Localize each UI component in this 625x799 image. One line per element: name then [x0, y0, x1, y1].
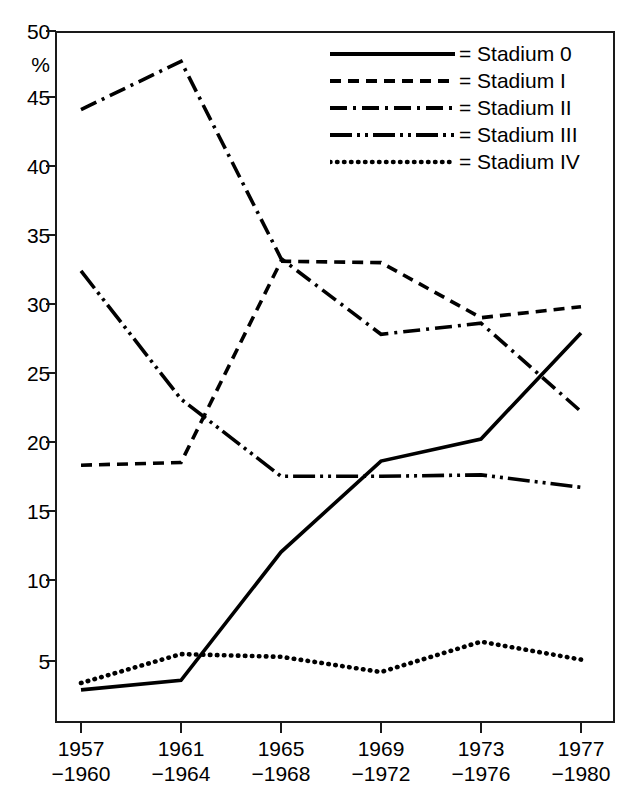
y-tick-label-40: 40 [4, 156, 50, 177]
legend-label-stadium-4: = Stadium IV [459, 151, 580, 172]
legend-item-stadium-3: = Stadium III [330, 121, 585, 148]
legend-item-stadium-4: = Stadium IV [330, 148, 585, 175]
x-tick-marks [81, 723, 581, 733]
x-axis: 1957 −1960 1961 −1964 1965 −1968 1969 −1… [0, 736, 625, 796]
x-tick-start-year: 1973 [458, 737, 505, 760]
legend-line-sample-dash-dot-dot [330, 126, 455, 144]
legend-label-stadium-1: = Stadium I [459, 70, 566, 91]
legend-item-stadium-0: = Stadium 0 [330, 40, 585, 67]
legend: = Stadium 0 = Stadium I = Stadium II [330, 40, 585, 175]
y-axis-unit-label: % [4, 54, 50, 75]
y-tick-label-10: 10 [4, 570, 50, 591]
y-axis: 50 % 45 40 35 30 25 20 15 10 5 [0, 0, 50, 799]
x-tick-start-year: 1957 [58, 737, 105, 760]
bottom-caption [60, 790, 620, 799]
y-tick-label-35: 35 [4, 225, 50, 246]
x-tick-end-year: −1980 [521, 761, 625, 786]
y-tick-label-45: 45 [4, 87, 50, 108]
line-chart-figure: 50 % 45 40 35 30 25 20 15 10 5 [0, 0, 625, 799]
legend-label-stadium-2: = Stadium II [459, 97, 572, 118]
y-tick-label-5: 5 [4, 651, 50, 672]
y-tick-label-20: 20 [4, 432, 50, 453]
legend-line-sample-solid [330, 45, 455, 63]
y-tick-label-15: 15 [4, 501, 50, 522]
y-tick-label-25: 25 [4, 363, 50, 384]
legend-item-stadium-2: = Stadium II [330, 94, 585, 121]
x-tick-label-1977-1980: 1977 −1980 [521, 736, 625, 786]
legend-label-stadium-0: = Stadium 0 [459, 43, 572, 64]
x-tick-start-year: 1965 [258, 737, 305, 760]
x-tick-start-year: 1969 [358, 737, 405, 760]
x-tick-start-year: 1977 [558, 737, 605, 760]
x-tick-start-year: 1961 [158, 737, 205, 760]
legend-line-sample-dotted [330, 153, 455, 171]
legend-line-sample-dash-dot [330, 99, 455, 117]
legend-label-stadium-3: = Stadium III [459, 124, 577, 145]
y-tick-label-30: 30 [4, 294, 50, 315]
y-tick-label-50: 50 [4, 21, 50, 42]
legend-item-stadium-1: = Stadium I [330, 67, 585, 94]
legend-line-sample-dashed [330, 72, 455, 90]
